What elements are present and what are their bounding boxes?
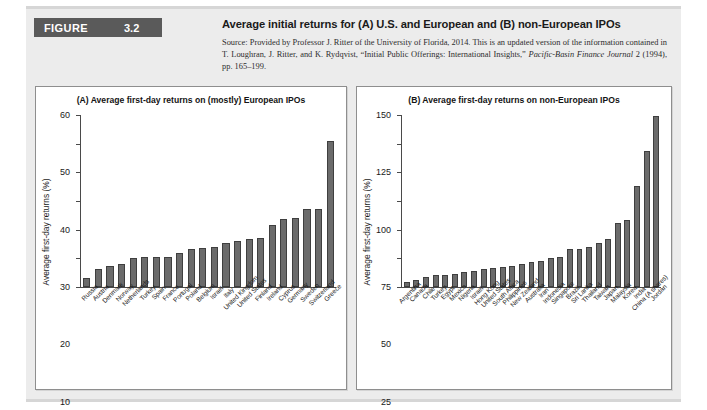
y-tick-label: 40 [60,225,70,235]
bar [577,249,583,287]
y-tick-label: 100 [376,225,391,235]
y-tick-label: 150 [376,110,391,120]
bar [176,253,183,287]
chart-a-plot: Average first-day returns (%) 0102030405… [36,109,342,389]
bar-cell [565,115,575,287]
bar [452,274,458,287]
bar [615,223,621,287]
bar [433,275,439,287]
bar [83,278,90,287]
figure-title: Average initial returns for (A) U.S. and… [222,18,671,30]
y-tick-label: 25 [381,397,391,407]
source-text-1: Source: Provided by Professor J. Ritter … [222,38,624,47]
bar-cell [412,115,422,287]
bar [605,239,611,287]
figure-number: 3.2 [124,22,139,34]
bar-cell [232,115,244,287]
bar-cell [431,115,441,287]
bar-cell [623,115,633,287]
bar-cell [174,115,186,287]
bar-cell [197,115,209,287]
bar-cell [255,115,267,287]
bar-cell [603,115,613,287]
bar-cell [301,115,313,287]
figure-container: FIGURE 3.2 Average initial returns for (… [26,6,681,402]
bar-cell [267,115,279,287]
bar-cell [575,115,585,287]
chart-panel-b: (B) Average first-day returns on non-Eur… [356,86,672,390]
bar-cell [81,115,93,287]
bar [644,151,650,287]
y-tick-label: 50 [60,167,70,177]
x-label-cell: Turkey [431,289,441,299]
x-label-cell: Spain [151,289,163,299]
chart-a-title: (A) Average first-day returns on (mostly… [36,95,346,105]
chart-a-axes: 0102030405060 RussiaAustriaDenmarkNorway… [80,115,336,389]
figure-source: Source: Provided by Professor J. Ritter … [222,37,667,74]
bar [153,257,160,287]
x-label-cell: Korea [623,289,633,299]
bar-cell [594,115,604,287]
bar-cell [243,115,255,287]
x-label-cell: Australia [527,289,537,299]
bar [634,186,640,287]
x-label-cell: Belgium [197,289,209,299]
bar [211,247,218,287]
x-label-cell: Greece [324,289,336,299]
chart-panel-a: (A) Average first-day returns on (mostly… [35,86,347,390]
bar-cell [584,115,594,287]
bar-cell [527,115,537,287]
bar-cell [642,115,652,287]
bar-cell [536,115,546,287]
figure-badge: FIGURE 3.2 [34,18,162,37]
bar [280,219,287,287]
x-label-cell: Turkey [139,289,151,299]
bar-cell [508,115,518,287]
bar-cell [402,115,412,287]
bar-cell [278,115,290,287]
chart-a-x-labels: RussiaAustriaDenmarkNorwayNetherlandsTur… [81,289,336,299]
bar-cell [556,115,566,287]
bar-cell [139,115,151,287]
bar-cell [613,115,623,287]
y-tick-label: 20 [60,339,70,349]
bar-cell [498,115,508,287]
bar [303,209,310,287]
bar [222,243,229,287]
bar-cell [209,115,221,287]
chart-b-plot: Average first-day returns (%) 0255075100… [357,109,667,389]
bar-cell [290,115,302,287]
bar [548,258,554,287]
x-label-cell: Netherlands [127,289,139,299]
x-label-cell: Canada [412,289,422,299]
x-label-cell: Nigeria [460,289,470,299]
figure-header: FIGURE 3.2 Average initial returns for (… [26,9,681,81]
y-tick-label: 50 [381,339,391,349]
chart-b-title: (B) Average first-day returns on non-Eur… [357,95,671,105]
bar [315,209,322,287]
bar [199,248,206,287]
bar [269,225,276,287]
bar [624,220,630,287]
chart-b-y-axis-label: Average first-day returns (%) [360,137,374,327]
x-label-cell: Jordan [651,289,661,299]
chart-b-x-labels: ArgentinaCanadaChileTurkeyEgyptMexicoNig… [402,289,661,299]
chart-b-bars [402,115,661,287]
bar-cell [185,115,197,287]
bar-cell [93,115,105,287]
figure-badge-word: FIGURE [44,22,88,34]
bar-cell [632,115,642,287]
bar-cell [104,115,116,287]
bar [234,241,241,287]
y-tick-label: 75 [381,282,391,292]
x-label-cell: Singapore [556,289,566,299]
bar-cell [313,115,325,287]
bar-cell [162,115,174,287]
bar [106,266,113,287]
bar-cell [151,115,163,287]
source-journal-name: Pacific-Basin Finance Journal [529,50,633,59]
bar-cell [460,115,470,287]
bar-cell [517,115,527,287]
bar [164,257,171,287]
bar [292,218,299,287]
